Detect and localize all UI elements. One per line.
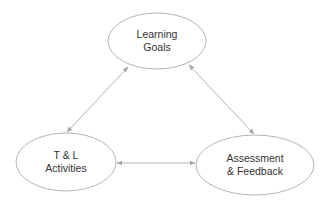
cycle-diagram: LearningGoalsT & LActivitiesAssessment& … [0,0,328,203]
node-assessment-feedback: Assessment& Feedback [196,135,314,195]
label-learning-goals-line-2: Goals [143,41,170,53]
label-tl-activities-line-2: Activities [45,162,86,174]
label-learning-goals-line-1: Learning [137,28,178,40]
node-tl-activities: T & LActivities [16,133,116,191]
node-learning-goals: LearningGoals [108,13,206,69]
label-tl-activities-line-1: T & L [54,149,79,161]
arrow-learning-goals-assessment-feedback [189,65,254,134]
label-assessment-feedback-line-1: Assessment [226,152,283,164]
label-assessment-feedback-line-2: & Feedback [227,165,284,177]
nodes: LearningGoalsT & LActivitiesAssessment& … [16,13,314,195]
arrow-learning-goals-tl-activities [67,67,128,132]
